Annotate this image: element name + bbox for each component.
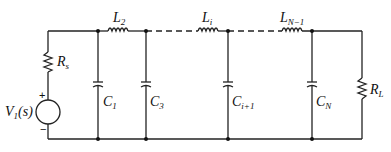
capacitor-c3	[141, 31, 151, 139]
top-rail	[98, 28, 362, 31]
capacitor-c1	[93, 31, 103, 139]
source-minus: −	[40, 123, 46, 135]
inductor-ln-1	[282, 28, 302, 31]
label-c1: C1	[103, 94, 117, 111]
label-c3: C3	[150, 94, 164, 111]
label-l2: L2	[112, 10, 126, 27]
label-v1: V1(s)	[5, 104, 33, 121]
voltage-source	[36, 100, 60, 124]
label-cn: CN	[316, 94, 332, 111]
source-plus: +	[39, 89, 45, 101]
ladder-circuit-diagram: Rs + − V1(s) L2 Li LN−1 C1 C3 Ci+1 CN RL	[0, 0, 391, 152]
label-rl: RL	[369, 82, 384, 99]
junction-dots	[96, 29, 314, 141]
label-rs: Rs	[56, 54, 70, 71]
inductor-li	[198, 28, 218, 31]
load-resistor	[358, 31, 366, 139]
capacitor-cn	[307, 31, 317, 139]
inductor-l2	[108, 28, 128, 31]
label-li: Li	[201, 10, 213, 27]
capacitor-ci+1	[223, 31, 233, 139]
label-ln-1: LN−1	[279, 10, 304, 27]
label-ci+1: Ci+1	[232, 94, 254, 111]
source-resistor	[44, 52, 52, 72]
